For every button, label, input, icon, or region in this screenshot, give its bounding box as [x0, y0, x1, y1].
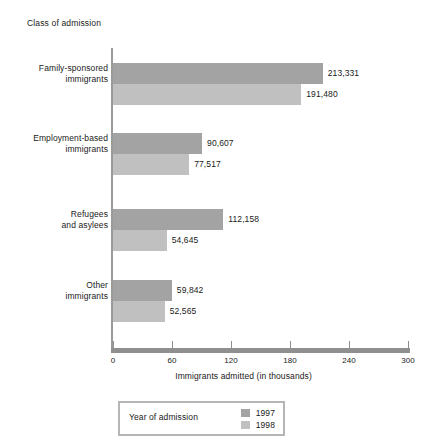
bar-group: Refugeesand asylees112,15854,645 — [0, 209, 435, 251]
category-label-line: immigrants — [0, 144, 108, 155]
x-tick — [408, 341, 409, 348]
bar-1998 — [113, 230, 167, 251]
x-axis-title: Immigrants admitted (in thousands) — [0, 371, 435, 381]
legend-entry: 1998 — [241, 419, 275, 430]
legend-entry-label: 1997 — [256, 408, 275, 418]
legend-swatch-icon — [241, 409, 250, 417]
bar-value-label: 54,645 — [172, 230, 199, 251]
category-label-line: Refugees — [71, 209, 108, 219]
bar-1997 — [113, 280, 172, 301]
category-label-line: and asylees — [0, 220, 108, 231]
x-tick-label: 60 — [168, 356, 177, 365]
bar-chart: Class of admission Family-sponsoredimmig… — [0, 0, 435, 448]
x-tick-label: 180 — [283, 356, 296, 365]
x-tick — [231, 341, 232, 348]
x-tick-label: 120 — [224, 356, 237, 365]
bar-1997 — [113, 133, 202, 154]
category-label: Family-sponsoredimmigrants — [0, 63, 108, 85]
category-label-line: Family-sponsored — [39, 63, 108, 73]
category-label: Otherimmigrants — [0, 280, 108, 302]
bar-group: Family-sponsoredimmigrants213,331191,480 — [0, 63, 435, 105]
bar-value-label: 77,517 — [194, 154, 221, 175]
legend-entry: 1997 — [241, 407, 275, 418]
bar-group: Otherimmigrants59,84252,565 — [0, 280, 435, 322]
category-label: Refugeesand asylees — [0, 209, 108, 231]
legend-items: 19971998 — [241, 407, 275, 431]
y-axis-title: Class of admission — [27, 18, 101, 28]
x-tick-label: 0 — [111, 356, 115, 365]
bar-value-label: 112,158 — [228, 209, 259, 230]
legend: Year of admission 19971998 — [118, 401, 285, 436]
legend-title: Year of admission — [129, 412, 198, 422]
x-tick-label: 300 — [401, 356, 414, 365]
bar-value-label: 59,842 — [177, 280, 204, 301]
bar-1998 — [113, 154, 189, 175]
bar-value-label: 52,565 — [170, 301, 197, 322]
category-label-line: Employment-based — [33, 133, 108, 143]
bar-1997 — [113, 63, 323, 84]
bar-value-label: 191,480 — [306, 84, 337, 105]
bar-value-label: 90,607 — [207, 133, 234, 154]
bar-1998 — [113, 84, 301, 105]
legend-entry-label: 1998 — [256, 420, 275, 430]
bar-value-label: 213,331 — [328, 63, 359, 84]
category-label-line: Other — [86, 280, 108, 290]
x-tick — [113, 341, 114, 348]
x-axis-title-text: Immigrants admitted (in thousands) — [123, 371, 312, 381]
category-label-line: immigrants — [0, 291, 108, 302]
x-axis-line — [111, 348, 410, 353]
bar-1997 — [113, 209, 223, 230]
x-tick-label: 240 — [342, 356, 355, 365]
bar-1998 — [113, 301, 165, 322]
x-tick — [349, 341, 350, 348]
x-tick — [290, 341, 291, 348]
bar-group: Employment-basedimmigrants90,60777,517 — [0, 133, 435, 175]
legend-swatch-icon — [241, 421, 250, 429]
category-label-line: immigrants — [0, 74, 108, 85]
category-label: Employment-basedimmigrants — [0, 133, 108, 155]
x-tick — [172, 341, 173, 348]
